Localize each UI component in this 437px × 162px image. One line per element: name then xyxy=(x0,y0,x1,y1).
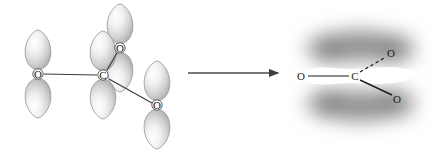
left-orbital-structure: O C O O xyxy=(25,4,170,149)
figure-canvas: O C O O xyxy=(0,0,437,162)
right-atom-label-o-left: O xyxy=(297,70,305,82)
orbital-resonance-figure: O C O O xyxy=(0,0,437,162)
pi-cloud-bottom xyxy=(300,84,422,128)
right-atom-label-o-upper: O xyxy=(387,47,395,59)
pi-cloud-top xyxy=(300,24,422,68)
left-atom-label-o-left: O xyxy=(34,68,42,80)
left-atom-label-c-center: C xyxy=(99,69,106,81)
right-atom-label-o-lower: O xyxy=(393,93,401,105)
left-atom-label-o-top: O xyxy=(116,42,124,54)
left-atom-label-o-bottom: O xyxy=(153,99,161,111)
right-atom-label-c-center: C xyxy=(351,70,358,82)
bond-o-left-c xyxy=(44,74,97,75)
right-hybrid-structure: O C O O xyxy=(292,24,424,128)
